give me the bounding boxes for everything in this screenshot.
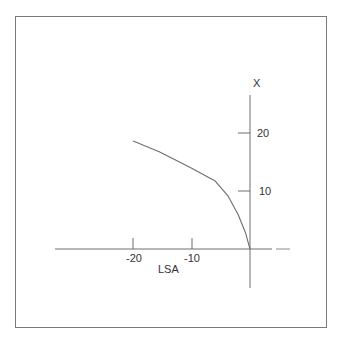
y-axis-title: X <box>253 77 261 89</box>
y-tick-label-10: 10 <box>259 185 271 197</box>
data-curve <box>133 141 250 249</box>
x-axis-title: LSA <box>158 263 179 275</box>
x-tick-label-neg20: -20 <box>126 252 142 264</box>
x-tick-label-neg10: -10 <box>184 252 200 264</box>
y-tick-label-20: 20 <box>257 127 269 139</box>
chart-plot-area: -20 -10 20 10 LSA X <box>0 0 344 344</box>
